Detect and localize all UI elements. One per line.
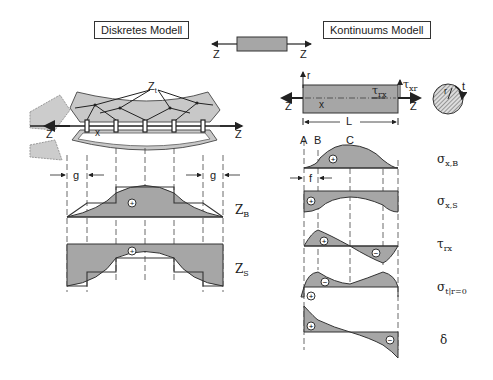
center-bar-figure	[212, 37, 311, 51]
svg-text:−: −	[374, 249, 379, 258]
svg-text:+: +	[130, 247, 135, 256]
discrete-model-title: Diskretes Modell	[94, 21, 189, 39]
continuum-force-left: Z	[285, 100, 292, 112]
point-a-label: A	[300, 134, 307, 146]
axis-r-label: r	[307, 70, 310, 81]
zb-label: ZB	[235, 203, 249, 219]
svg-text:−: −	[323, 278, 328, 287]
diagram-canvas: + + +	[0, 0, 493, 380]
point-c-label: C	[346, 134, 354, 146]
discrete-model-figure	[30, 90, 242, 160]
sigma-t-diagram: − +	[301, 272, 398, 301]
length-l-label: L	[346, 115, 352, 127]
svg-text:+: +	[309, 322, 314, 331]
svg-text:+: +	[309, 292, 314, 301]
sigma-t-label: σt|r=0	[437, 280, 467, 296]
tau-xr-label: τxr	[403, 78, 417, 93]
tau-rx-diagram-label: τrx	[437, 237, 452, 253]
zb-diagram: +	[67, 186, 223, 218]
tau-rx-label: τrx	[372, 84, 386, 99]
center-force-right: Z	[300, 48, 307, 60]
cross-section-t-label: t	[462, 80, 465, 92]
dim-g-right: g	[210, 169, 216, 181]
svg-text:+: +	[322, 237, 327, 246]
cross-section-r-label: r	[444, 86, 447, 96]
discrete-force-left: Z	[46, 128, 53, 140]
delta-diagram: + −	[304, 306, 398, 358]
discrete-force-right: Z	[235, 128, 242, 140]
svg-text:+: +	[331, 155, 336, 164]
discrete-coord-x: x	[95, 127, 100, 138]
continuum-model-title: Kontinuums Modell	[323, 21, 431, 39]
sigma-xb-label: σx,B	[437, 152, 458, 168]
inner-forces-label: Zt	[148, 80, 157, 94]
svg-text:+: +	[309, 197, 314, 206]
cross-section-figure	[433, 84, 463, 114]
svg-text:−: −	[388, 336, 393, 345]
center-force-left: Z	[213, 48, 220, 60]
continuum-coord-x: x	[319, 99, 324, 110]
svg-text:+: +	[130, 199, 135, 208]
dim-g-left: g	[73, 169, 79, 181]
sigma-xb-diagram: +	[304, 145, 398, 168]
delta-label: δ	[440, 333, 447, 347]
sigma-xs-label: σx,S	[437, 194, 458, 210]
sigma-xs-diagram: +	[304, 191, 398, 212]
point-b-label: B	[314, 134, 321, 146]
dim-f-label: f	[309, 172, 312, 184]
continuum-force-right: Z	[410, 100, 417, 112]
zs-label: ZS	[235, 262, 249, 278]
